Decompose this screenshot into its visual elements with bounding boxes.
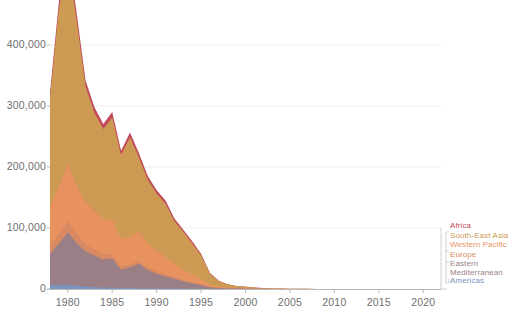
legend-item-africa[interactable]: Africa [450,222,471,231]
y-axis-tick-label: 100,000 [7,221,46,233]
x-axis-tick-label: 2015 [367,296,391,308]
x-axis-tick-label: 1990 [145,296,169,308]
x-axis-tick-label: 2020 [411,296,435,308]
x-axis-tick-label: 1995 [189,296,213,308]
legend: AfricaSouth-East AsiaWestern PacificEuro… [450,222,519,300]
legend-item-eastern-mediterranean[interactable]: Eastern Mediterranean [450,260,516,277]
y-axis-tick-label: 0 [40,282,46,294]
x-axis-tick-label: 1985 [100,296,124,308]
x-axis-tick-label: 2010 [322,296,346,308]
area-series-group [50,0,432,289]
legend-item-western-pacific[interactable]: Western Pacific [450,241,507,250]
y-axis-tick-label: 200,000 [7,160,46,172]
stacked-area-chart: 0100,000200,000300,000400,000 1980198519… [0,0,519,315]
y-axis-tick-label: 400,000 [7,38,46,50]
legend-item-americas[interactable]: Americas [450,277,484,286]
y-axis-tick-label: 300,000 [7,99,46,111]
plot-area [0,0,519,315]
x-axis-tick-label: 1980 [56,296,80,308]
x-axis-tick-label: 2005 [278,296,302,308]
y-axis: 0100,000200,000300,000400,000 [0,0,46,315]
legend-leader-lines [441,228,449,289]
legend-item-europe[interactable]: Europe [450,251,476,260]
x-axis-tick-label: 2000 [233,296,257,308]
x-axis: 198019851990199520002005201020152020 [0,294,519,314]
legend-item-south-east-asia[interactable]: South-East Asia [450,232,508,241]
